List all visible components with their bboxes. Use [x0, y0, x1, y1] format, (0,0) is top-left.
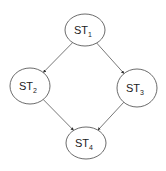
edge-st1-to-st3 [97, 43, 124, 74]
node-st2: ST2 [10, 68, 50, 104]
edges-layer [43, 43, 124, 131]
node-st1: ST1 [65, 14, 105, 46]
state-diagram: ST1ST2ST3ST4 [0, 0, 166, 171]
node-st3: ST3 [117, 69, 157, 107]
node-st4: ST4 [66, 127, 106, 159]
edge-st3-to-st4 [98, 102, 124, 130]
edge-st1-to-st2 [43, 43, 72, 73]
edge-st2-to-st4 [43, 99, 73, 130]
nodes-layer: ST1ST2ST3ST4 [10, 14, 157, 159]
